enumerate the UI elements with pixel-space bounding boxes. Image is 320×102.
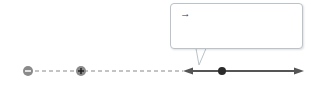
e2-arrowhead-icon [294, 68, 304, 75]
e1-arrowhead-icon [183, 68, 193, 75]
point-a-icon [218, 67, 226, 75]
callout-tail-icon [196, 49, 206, 66]
particle-2-icon [76, 66, 86, 76]
callout-line-1: → [180, 8, 302, 21]
e1-vector: → [180, 8, 191, 19]
particle-1-icon [23, 66, 33, 76]
field-diagram: → [0, 0, 320, 102]
callout-box: → [170, 3, 303, 49]
